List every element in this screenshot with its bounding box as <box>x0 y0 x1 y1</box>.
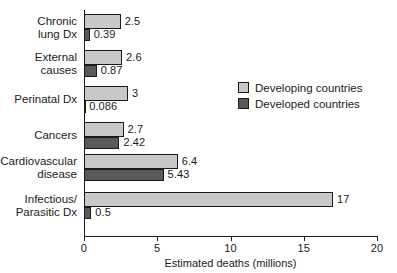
bar-value-label-developed-3: 2.42 <box>123 136 145 148</box>
category-label-0: Chronic lung Dx <box>0 15 77 40</box>
x-tick-label-0: 0 <box>81 242 87 254</box>
chart-legend: Developing countries Developed countries <box>238 80 362 112</box>
bar-value-label-developing-5: 17 <box>337 193 349 205</box>
x-tick-10 <box>231 236 232 241</box>
bar-value-label-developing-0: 2.5 <box>125 15 141 27</box>
bar-developed-0 <box>84 29 90 41</box>
x-tick-label-10: 10 <box>224 242 237 254</box>
category-label-3: Cancers <box>0 129 77 142</box>
category-label-2: Perinatal Dx <box>0 93 77 106</box>
bar-developing-2 <box>84 86 128 101</box>
bar-developed-5 <box>84 207 91 219</box>
bar-developing-5 <box>84 192 333 207</box>
category-label-5: Infectious/ Parasitic Dx <box>0 193 77 218</box>
category-label-1: External causes <box>0 51 77 76</box>
x-tick-label-5: 5 <box>154 242 160 254</box>
bar-value-label-developing-3: 2.7 <box>128 123 144 135</box>
bar-developed-3 <box>84 137 119 149</box>
x-tick-5 <box>157 236 158 241</box>
bar-value-label-developed-0: 0.39 <box>94 28 116 40</box>
x-tick-label-20: 20 <box>371 242 384 254</box>
grouped-bar-chart: 05101520 2.50.392.60.8730.0862.72.426.45… <box>0 0 397 273</box>
bar-value-label-developed-5: 0.5 <box>95 206 111 218</box>
x-tick-15 <box>304 236 305 241</box>
x-tick-0 <box>84 236 85 241</box>
bar-developed-2 <box>84 101 86 113</box>
bar-value-label-developed-4: 5.43 <box>168 168 190 180</box>
x-tick-20 <box>377 236 378 241</box>
category-label-4: Cardiovascular disease <box>0 155 77 180</box>
legend-item-developing: Developing countries <box>238 80 362 95</box>
bar-developing-1 <box>84 50 122 65</box>
x-tick-label-15: 15 <box>297 242 310 254</box>
bar-value-label-developed-1: 0.87 <box>101 64 123 76</box>
legend-label-developed: Developed countries <box>255 98 360 110</box>
bar-value-label-developing-1: 2.6 <box>126 51 142 63</box>
legend-item-developed: Developed countries <box>238 96 362 111</box>
bar-value-label-developing-2: 3 <box>132 87 138 99</box>
legend-label-developing: Developing countries <box>255 82 362 94</box>
legend-swatch-developing-icon <box>238 82 249 93</box>
bar-value-label-developed-2: 0.086 <box>89 100 117 112</box>
bar-developed-1 <box>84 65 97 77</box>
bar-developing-0 <box>84 14 121 29</box>
bar-developing-4 <box>84 154 178 169</box>
bar-developed-4 <box>84 169 164 181</box>
x-axis-title: Estimated deaths (millions) <box>84 257 377 269</box>
bar-value-label-developing-4: 6.4 <box>182 155 198 167</box>
bar-developing-3 <box>84 122 124 137</box>
legend-swatch-developed-icon <box>238 98 249 109</box>
